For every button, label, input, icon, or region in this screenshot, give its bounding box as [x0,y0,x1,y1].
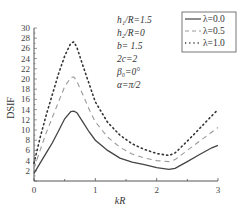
param-b: b= 1.5 [117,41,143,51]
y-tick-label: 28 [21,33,31,43]
series-line-solid [34,111,218,173]
y-tick-label: 2 [26,166,31,176]
y-axis-label: DSIF [5,97,16,119]
y-tick-label: 12 [21,115,30,125]
y-tick-label: 16 [21,94,31,104]
param-h1: h₁/R=1.5 [117,15,152,25]
param-h2: h₂/R=0 [117,28,145,38]
legend: λ=0.0 λ=0.5 λ=1.0 [182,12,236,52]
x-tick-label: 3 [216,185,221,195]
y-tick-label: 20 [21,74,31,84]
y-tick-label: 26 [21,43,31,53]
x-tick-label: 0 [32,185,37,195]
y-tick-label: 22 [21,64,30,74]
legend-label-1: λ=0.5 [203,26,225,36]
x-axis-label: kR [115,195,126,206]
param-2c: 2c=2 [117,54,137,64]
y-tick-label: 8 [26,135,31,145]
y-tick-label: 10 [21,125,31,135]
legend-label-0: λ=0.0 [203,14,225,24]
x-tick-label: 1 [93,185,98,195]
series-line-dashed [34,77,218,168]
legend-label-2: λ=1.0 [203,38,225,48]
line-chart: 012324681012141618202224262830 kR DSIF h… [0,0,238,215]
y-tick-label: 6 [26,145,31,155]
param-beta0: β₀=0° [116,67,140,77]
param-alpha: α=π/2 [117,80,141,90]
y-tick-label: 18 [21,84,31,94]
y-tick-label: 30 [21,23,31,33]
y-tick-label: 4 [26,156,31,166]
y-tick-label: 14 [21,105,31,115]
parameter-annotations: h₁/R=1.5 h₂/R=0 b= 1.5 2c=2 β₀=0° α=π/2 [116,15,152,90]
y-tick-label: 24 [21,54,31,64]
x-tick-label: 2 [154,185,159,195]
